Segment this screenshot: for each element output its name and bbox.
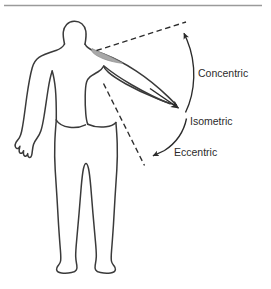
label-isometric: Isometric <box>190 115 233 127</box>
figure-container: Concentric Isometric Eccentric <box>0 0 271 289</box>
label-concentric: Concentric <box>198 67 248 79</box>
figure-background <box>0 0 271 289</box>
muscle-contraction-diagram: Concentric Isometric Eccentric <box>0 0 271 289</box>
label-eccentric: Eccentric <box>174 146 217 158</box>
